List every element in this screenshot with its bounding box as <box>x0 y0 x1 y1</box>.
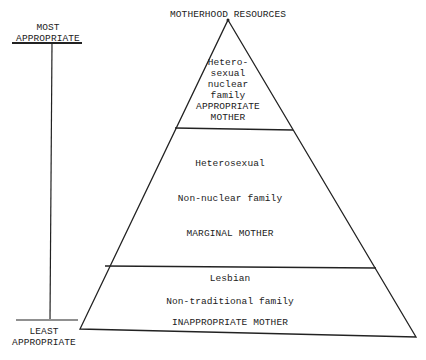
tier-divider-top <box>175 128 293 130</box>
tier-line: Non-nuclear family <box>150 193 310 204</box>
diagram-title: MOTHERHOOD RESOURCES <box>148 9 308 20</box>
scale-top-label-line: MOST <box>4 22 92 33</box>
tier-line: nuclear <box>188 79 268 90</box>
scale-top-label: MOST APPROPRIATE <box>4 22 92 44</box>
scale-bottom-label-line: LEAST <box>4 326 84 337</box>
tier-line: sexual <box>188 68 268 79</box>
tier-line: Non-traditional family <box>140 296 320 307</box>
tier-top-text: Hetero- sexual nuclear family APPROPRIAT… <box>188 57 268 123</box>
tier-line: MOTHER <box>188 112 268 123</box>
tier-bottom-text: Lesbian Non-traditional family INAPPROPR… <box>140 273 320 328</box>
tier-line: Heterosexual <box>150 158 310 169</box>
tier-line: Hetero- <box>188 57 268 68</box>
tier-middle-text: Heterosexual Non-nuclear family MARGINAL… <box>150 158 310 239</box>
tier-line: INAPPROPRIATE MOTHER <box>140 317 320 328</box>
tier-line: MARGINAL MOTHER <box>150 228 310 239</box>
tier-line: APPROPRIATE <box>188 101 268 112</box>
tier-line: family <box>188 90 268 101</box>
scale-top-label-line: APPROPRIATE <box>4 33 92 44</box>
scale-bottom-label-line: APPROPRIATE <box>4 337 84 348</box>
tier-line: Lesbian <box>140 273 320 284</box>
tier-divider-bottom <box>105 266 376 268</box>
scale-vertical-line <box>50 43 52 319</box>
scale-bottom-label: LEAST APPROPRIATE <box>4 326 84 348</box>
